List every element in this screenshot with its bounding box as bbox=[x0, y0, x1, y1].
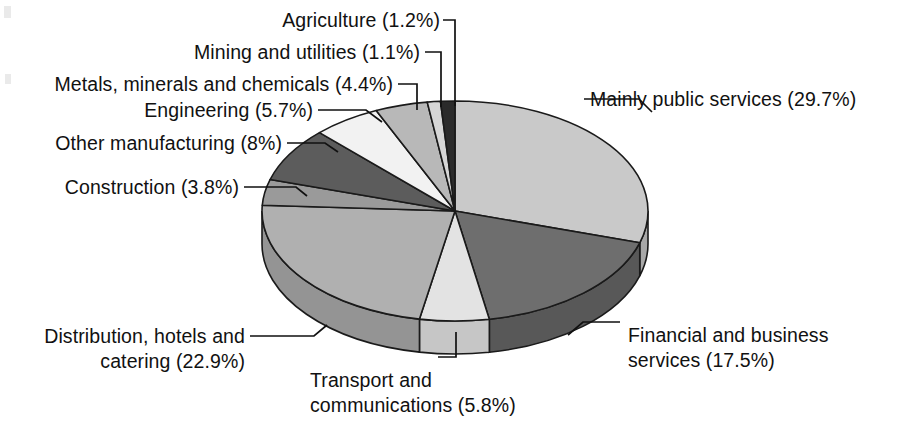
callout-label-financial-line1: Financial and business bbox=[628, 323, 915, 348]
callout-label-transport-line2: communications (5.8%) bbox=[310, 393, 600, 418]
callout-label-distribution-line2: catering (22.9%) bbox=[20, 349, 245, 374]
callout-label-engineering: Engineering (5.7%) bbox=[110, 98, 313, 123]
callout-label-agriculture: Agriculture (1.2%) bbox=[180, 8, 440, 33]
callout-label-public-services: Mainly public services (29.7%) bbox=[590, 87, 910, 112]
callout-label-financial-line2: services (17.5%) bbox=[628, 348, 915, 373]
callout-label-mining: Mining and utilities (1.1%) bbox=[120, 40, 420, 65]
pie-chart-figure: Agriculture (1.2%) Mining and utilities … bbox=[0, 0, 915, 442]
callout-label-distribution-line1: Distribution, hotels and bbox=[20, 324, 245, 349]
leader-line-mining bbox=[425, 52, 441, 107]
callout-label-transport-line1: Transport and bbox=[310, 368, 510, 393]
callout-label-other-manufacturing: Other manufacturing (8%) bbox=[20, 131, 282, 156]
callout-label-construction: Construction (3.8%) bbox=[20, 175, 239, 200]
leader-line-agriculture bbox=[443, 20, 455, 106]
leader-line-distribution bbox=[250, 325, 327, 336]
pie-slice-side-2 bbox=[419, 319, 489, 354]
pie-slice-tops bbox=[262, 101, 648, 321]
callout-label-metals: Metals, minerals and chemicals (4.4%) bbox=[20, 72, 393, 97]
